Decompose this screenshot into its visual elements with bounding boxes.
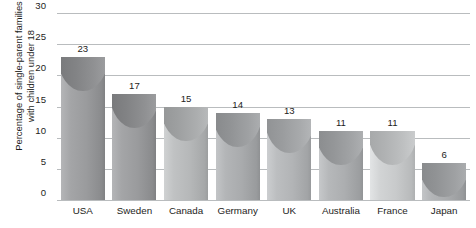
x-axis-label-japan: Japan [418,204,470,218]
gridline-0 [57,200,470,201]
x-axis-label-sweden: Sweden [109,204,161,218]
bar-value-label: 14 [216,100,260,110]
bars-layer: 231715141311116 [57,13,470,200]
bar-group: 23 [61,13,105,200]
y-axis-title-line-2: with children under 18 [25,30,38,122]
x-axis-label-uk: UK [264,204,316,218]
x-axis-label-france: France [367,204,419,218]
y-tick-label-20: 20 [20,63,46,73]
y-tick-label-25: 25 [20,32,46,42]
bar-value-label: 13 [267,106,311,116]
x-axis-label-germany: Germany [212,204,264,218]
bar[interactable] [422,163,466,200]
bar-group: 15 [164,13,208,200]
bar[interactable] [370,131,414,200]
y-tick-label-30: 30 [20,1,46,11]
y-tick-label-10: 10 [20,126,46,136]
y-tick-label-5: 5 [20,157,46,167]
y-tick-label-0: 0 [20,188,46,198]
bar-chart: Percentage of single-parent families wit… [0,0,476,228]
bar-value-label: 15 [164,94,208,104]
bar-value-label: 11 [319,118,363,128]
y-axis-title: Percentage of single-parent families wit… [12,0,38,164]
bar[interactable] [216,113,260,200]
bar[interactable] [267,119,311,200]
bar-group: 13 [267,13,311,200]
bar-value-label: 6 [422,150,466,160]
bar-value-label: 23 [61,44,105,54]
bar[interactable] [164,107,208,201]
bar-value-label: 17 [112,81,156,91]
plot-area: 302520151050 231715141311116 [57,13,470,200]
x-axis-label-canada: Canada [160,204,212,218]
bar-group: 14 [216,13,260,200]
y-tick-label-15: 15 [20,95,46,105]
bar[interactable] [61,57,105,200]
x-axis-label-usa: USA [57,204,109,218]
bar-group: 6 [422,13,466,200]
bar-value-label: 11 [370,118,414,128]
bar[interactable] [112,94,156,200]
bar-group: 11 [370,13,414,200]
x-axis-category-labels: USASwedenCanadaGermanyUKAustraliaFranceJ… [57,204,470,222]
bar-group: 11 [319,13,363,200]
bar-group: 17 [112,13,156,200]
bar[interactable] [319,131,363,200]
x-axis-label-australia: Australia [315,204,367,218]
